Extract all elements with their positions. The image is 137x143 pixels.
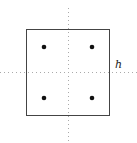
symmetry-diagram: h [0, 0, 137, 143]
dot-bottom-left [42, 96, 47, 101]
dot-top-left [42, 45, 47, 50]
dot-top-right [90, 45, 95, 50]
dot-bottom-right [90, 96, 95, 101]
axis-label-h: h [115, 58, 122, 71]
